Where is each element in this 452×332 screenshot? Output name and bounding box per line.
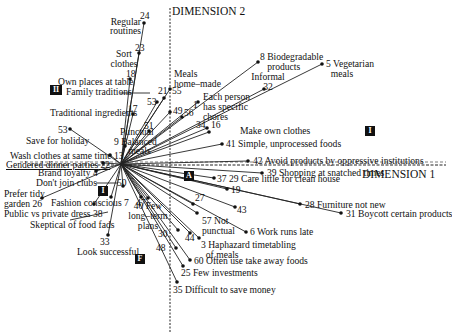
label-dont-join-clubs: Don't join clubs [36,178,97,188]
point-19-number: 19 [231,185,241,195]
point-60-dot [188,258,192,262]
label-care-little-clean: 37 29 Care little for clean house [217,174,340,184]
label-difficult-save: 35 Difficult to save money [173,285,276,295]
label-prefer-tidy-garden: Prefer tidygarden 26 [4,189,45,209]
label-not-punctual: 57 Notpunctual [202,216,235,236]
point-55-number: 55 [172,86,182,96]
point-21-dot [162,96,166,100]
label-each-person-chores: Each personhas specificchores [203,92,250,122]
point-42-dot [246,159,250,163]
point-28-dot [298,202,302,206]
label-balanced-meals: 9 Balanced meals [114,137,157,155]
point-16-number: 16 [211,120,221,130]
point-53c-number: 53 [147,97,157,107]
label-public-private-dress: Public vs private dress 38 [4,209,103,219]
label-make-own-clothes: Make own clothes [240,126,310,136]
label-save-holiday: Save for holiday [26,136,89,146]
point-31-dot [339,211,343,215]
label-fashion-conscious: Fashion conscious 7 [51,198,129,208]
point-48-dot [174,246,178,250]
ray-42 [121,161,248,164]
point-34-number: 34 [196,120,206,130]
label-simple-foods: 41 Simple, unprocessed foods [226,139,341,149]
quadrant-iii-badge: I [98,186,108,196]
label-avoid-products: 42 Avoid products by oppressive institut… [253,156,424,166]
point-49-number: 49 [173,106,183,116]
quadrant-i-badge: I [365,126,375,136]
point-57-dot [195,211,199,215]
label-regular-routines: Regularroutines [108,17,141,35]
point-44-number: 44 [185,233,195,243]
point-30-number: 30 [158,229,168,239]
label-few-investments: 25 Few investments [181,268,258,278]
label-traditional-ingredients: Traditional ingredients [50,108,137,118]
point-6-dot [244,230,248,234]
point-49-dot [168,110,172,114]
label-biodegradable: 8 Biodegradable products [260,52,323,72]
point-37-dot [212,176,216,180]
point-41-dot [220,142,224,146]
point-1-number: 1 [193,100,198,110]
label-boycott: 31 Boycott certain products [346,209,452,219]
label-work-runs-late: 6 Work runs late [250,227,313,237]
point-27-number: 27 [195,193,205,203]
ray-37 [121,164,214,178]
point-53L-dot [68,127,72,131]
point-19-dot [225,187,229,191]
dimension-2-title: DIMENSION 2 [172,5,245,17]
point-53-number: 53 [58,125,68,135]
point-21-number: 21 [158,86,168,96]
point-48-number: 48 [156,243,166,253]
label-look-successful: Look successful [77,247,139,257]
point-50-number: 50 [117,178,127,188]
label-informal: Informal32 [248,72,288,92]
label-skeptical-food-fads: Skeptical of food fads [30,220,114,230]
label-sort-clothes: Sortclothes [109,49,139,69]
point-43-number: 43 [237,205,247,215]
label-vegetarian: 5 Vegetarian meals [326,59,374,79]
point-16-dot [207,130,211,134]
quadrant-a-badge: A [184,171,194,181]
point-24-number: 24 [140,11,150,21]
label-take-away: 60 Often use take away foods [194,256,308,266]
label-few-long-term: 40 Fewlong–termplans [128,201,168,231]
point-24-dot [142,21,146,25]
label-family-traditions: Family traditions [66,87,132,97]
point-30-dot [176,228,180,232]
